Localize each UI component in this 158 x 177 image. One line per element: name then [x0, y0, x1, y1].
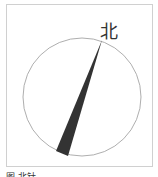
north-arrow-diagram: 北	[0, 0, 158, 177]
north-label: 北	[100, 21, 118, 42]
north-needle	[56, 40, 102, 156]
caption: 图 北针	[6, 170, 36, 177]
